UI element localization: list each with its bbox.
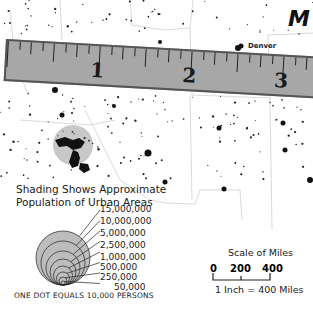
population-dot: [8, 107, 10, 109]
denver-marker: [239, 44, 244, 49]
population-dot: [55, 12, 56, 13]
population-dot: [262, 178, 264, 180]
population-dot: [229, 28, 230, 29]
population-dot: [259, 31, 260, 32]
population-dot: [153, 100, 154, 101]
population-dot: [74, 158, 76, 160]
population-dot: [295, 144, 297, 146]
population-dot: [66, 143, 67, 144]
ruler-tick: [76, 45, 78, 57]
population-dot: [74, 133, 75, 134]
population-dot: [207, 165, 208, 166]
population-dot: [71, 31, 73, 33]
ruler-tick: [65, 44, 66, 52]
population-dot: [159, 13, 161, 15]
population-dot: [182, 23, 184, 25]
population-dot: [8, 101, 10, 103]
population-dot: [110, 118, 112, 120]
population-dot: [266, 4, 268, 6]
population-dot: [107, 113, 108, 114]
population-dot: [230, 124, 231, 125]
population-dot: [6, 172, 8, 174]
population-dot: [154, 9, 155, 10]
population-dot: [140, 155, 142, 157]
ruler-number-3: 3: [273, 68, 288, 93]
population-dot: [130, 101, 131, 102]
population-dot: [0, 112, 1, 113]
population-dot: [275, 119, 277, 121]
city-label-denver: Denver: [248, 42, 276, 50]
population-dot: [23, 174, 25, 176]
population-dot: [144, 27, 146, 29]
ruler-tick: [294, 57, 295, 65]
ruler-tick: [88, 46, 89, 54]
population-dot: [233, 114, 235, 116]
scale-title: Scale of Miles: [228, 247, 293, 258]
population-dot: [24, 158, 25, 159]
population-dot: [219, 141, 221, 143]
population-dot: [234, 140, 236, 142]
state-label: M: [288, 6, 310, 31]
population-dot: [27, 177, 29, 179]
population-dot: [123, 156, 125, 158]
population-dot: [96, 165, 98, 167]
population-level-label: 250,000: [100, 272, 137, 282]
scale-tick-200: 200: [230, 263, 251, 274]
ruler-tick: [249, 55, 250, 63]
population-dot: [216, 17, 218, 19]
population-dot: [47, 138, 49, 140]
population-dot: [88, 140, 90, 142]
ruler-tick: [42, 43, 43, 51]
population-dot: [52, 177, 54, 179]
population-dot: [288, 135, 290, 137]
population-dot: [38, 142, 40, 144]
population-dot: [250, 136, 252, 138]
population-dot: [112, 105, 114, 107]
population-dot: [220, 176, 221, 177]
ruler-tick: [214, 53, 216, 65]
population-dot: [0, 175, 2, 177]
scale-tick-0: 0: [210, 263, 217, 274]
ruler-tick: [168, 50, 170, 62]
scale-bar: [213, 273, 270, 280]
population-dot: [82, 4, 83, 5]
population-level-label: 2,500,000: [100, 240, 146, 250]
population-dot: [91, 22, 92, 23]
population-dot: [78, 140, 79, 141]
population-dot: [120, 162, 122, 164]
population-dot: [84, 106, 85, 107]
ruler-tick: [30, 42, 32, 54]
population-dot: [273, 30, 274, 31]
population-dot: [41, 129, 43, 131]
population-level-label: 500,000: [100, 262, 137, 272]
population-dot: [117, 96, 119, 98]
population-dot: [301, 143, 303, 145]
population-dot: [3, 133, 5, 135]
population-dot: [312, 2, 313, 3]
population-dot: [204, 1, 205, 2]
population-dot: [298, 33, 300, 35]
population-dot: [76, 21, 77, 22]
population-dot: [247, 24, 248, 25]
population-dot: [107, 104, 108, 105]
population-dot: [155, 162, 157, 164]
population-dot: [148, 16, 150, 18]
population-dot: [294, 131, 296, 133]
population-dot: [225, 113, 227, 115]
population-dot: [97, 148, 99, 150]
population-dot: [130, 160, 132, 162]
population-dot: [48, 24, 49, 25]
population-dot: [300, 109, 301, 110]
ruler-tick: [145, 49, 147, 67]
population-dot: [70, 169, 72, 171]
population-dot: [141, 136, 142, 137]
population-dot: [25, 148, 26, 149]
population-dot: [27, 25, 29, 27]
population-dot: [246, 127, 248, 129]
population-dot: [170, 177, 172, 179]
population-dot: [302, 166, 304, 168]
ruler-tick: [134, 48, 135, 56]
population-dot: [107, 126, 109, 128]
population-dot: [49, 165, 51, 167]
population-dot: [220, 96, 221, 97]
